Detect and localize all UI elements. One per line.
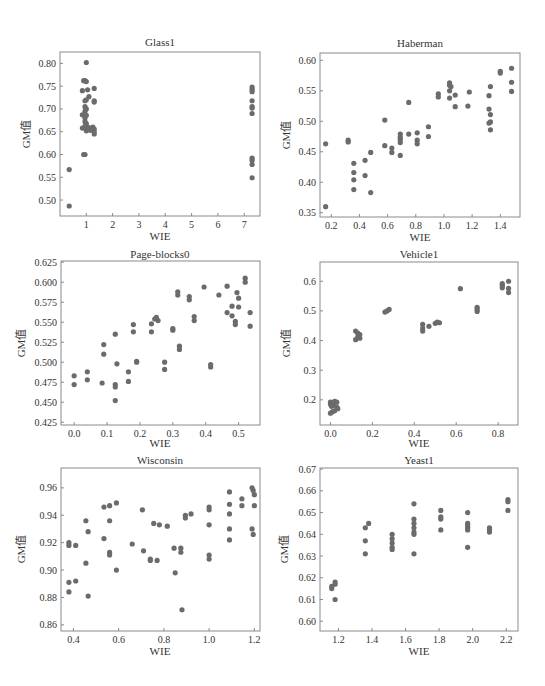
data-point (363, 538, 368, 543)
data-point (509, 66, 514, 71)
y-tick-label: 0.55 (39, 172, 57, 183)
data-point (140, 507, 145, 512)
data-point (486, 106, 491, 111)
y-axis-label: GM值 (15, 535, 27, 564)
data-point (107, 503, 112, 508)
data-point (363, 525, 368, 530)
x-tick-label: 0.0 (68, 428, 81, 439)
data-point (437, 320, 442, 325)
data-point (225, 310, 230, 315)
data-point (88, 128, 93, 133)
data-point (488, 112, 493, 117)
x-tick-label: 0.8 (158, 634, 171, 645)
data-point (82, 152, 87, 157)
scatter-plot-grid: Glass1 WIE GM值 12345670.500.550.600.650.… (0, 0, 545, 686)
data-point (415, 130, 420, 135)
data-point (506, 279, 511, 284)
y-tick-label: 0.475 (35, 377, 58, 388)
axes-frame (61, 261, 260, 425)
data-point (92, 100, 97, 105)
x-axis-label: WIE (150, 230, 171, 242)
data-point (149, 329, 154, 334)
data-point (227, 526, 232, 531)
data-point (157, 522, 162, 527)
y-tick-label: 0.450 (35, 397, 58, 408)
data-point (92, 86, 97, 91)
x-tick-label: 2 (110, 219, 115, 230)
y-tick-label: 0.61 (299, 594, 317, 605)
data-point (458, 286, 463, 291)
y-tick-label: 0.63 (299, 551, 317, 562)
data-point (126, 369, 131, 374)
data-point (250, 162, 255, 167)
x-tick-label: 2.0 (466, 634, 479, 645)
data-point (83, 561, 88, 566)
data-point (72, 373, 77, 378)
subplot-wisconsin: Wisconsin WIE GM值 0.40.60.81.01.20.860.8… (15, 454, 261, 657)
data-point (486, 121, 491, 126)
data-point (505, 499, 510, 504)
subplot-title: Page-blocks0 (130, 248, 190, 260)
data-point (362, 158, 367, 163)
data-point (73, 578, 78, 583)
data-point (465, 103, 470, 108)
x-tick-label: 1.2 (332, 634, 345, 645)
data-point (351, 161, 356, 166)
x-tick-label: 1.8 (433, 634, 446, 645)
data-point (179, 607, 184, 612)
y-tick-label: 0.4 (304, 335, 317, 346)
data-point (415, 141, 420, 146)
data-point (236, 304, 241, 309)
data-point (368, 150, 373, 155)
x-tick-label: 1.4 (366, 634, 379, 645)
x-tick-label: 0.5 (232, 428, 245, 439)
data-point (85, 369, 90, 374)
data-point (101, 504, 106, 509)
y-axis-label: GM值 (15, 329, 27, 358)
data-point (141, 548, 146, 553)
y-tick-label: 0.60 (299, 55, 317, 66)
data-point (447, 88, 452, 93)
data-point (420, 328, 425, 333)
data-point (406, 131, 411, 136)
data-point (92, 131, 97, 136)
y-tick-label: 0.90 (40, 565, 58, 576)
data-point (227, 511, 232, 516)
data-point (243, 280, 248, 285)
data-point (175, 292, 180, 297)
data-point (250, 175, 255, 180)
axes-frame (320, 262, 518, 425)
data-point (85, 377, 90, 382)
data-point (335, 406, 340, 411)
data-point (170, 328, 175, 333)
data-point (411, 501, 416, 506)
y-tick-label: 0.75 (39, 81, 57, 92)
data-point (114, 567, 119, 572)
data-point (229, 304, 234, 309)
data-point (509, 89, 514, 94)
y-tick-label: 0.5 (304, 305, 317, 316)
data-point (362, 173, 367, 178)
data-point (113, 384, 118, 389)
data-point (488, 127, 493, 132)
data-point (234, 290, 239, 295)
data-point (251, 532, 256, 537)
subplot-title: Wisconsin (137, 454, 183, 466)
data-point (73, 543, 78, 548)
data-point (366, 521, 371, 526)
y-tick-label: 0.67 (299, 464, 317, 475)
y-tick-label: 0.88 (40, 592, 58, 603)
data-point (248, 324, 253, 329)
data-point (151, 521, 156, 526)
x-tick-label: 0.8 (492, 428, 505, 439)
data-point (398, 140, 403, 145)
data-point (438, 527, 443, 532)
y-tick-label: 0.40 (299, 177, 317, 188)
y-tick-label: 0.600 (35, 277, 58, 288)
x-tick-label: 1.4 (494, 220, 507, 231)
y-tick-label: 0.62 (299, 572, 317, 583)
subplot-haberman: Haberman WIE GM值 0.20.40.60.81.01.21.40.… (280, 37, 520, 243)
data-point (252, 492, 257, 497)
x-tick-label: 1.2 (466, 220, 479, 231)
data-point (467, 89, 472, 94)
